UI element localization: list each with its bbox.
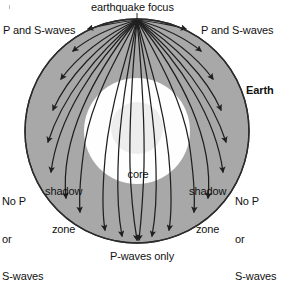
label-p-waves-only: P-waves only	[104, 250, 180, 263]
label-core: core	[120, 168, 156, 181]
label-right-s-waves-line: S-waves	[235, 270, 276, 283]
label-left-shadow-zone: shadow zone	[45, 160, 82, 260]
label-left-or-line: or	[2, 233, 43, 246]
label-right-p-and-s-waves: P and S-waves	[201, 24, 273, 37]
label-right-no-p-or-s-waves: No P or S-waves	[235, 170, 276, 284]
label-earth: Earth	[246, 84, 274, 97]
label-right-shadow-zone: shadow zone	[189, 160, 226, 260]
label-earthquake-focus: earthquake focus	[91, 1, 174, 14]
label-right-or-line: or	[235, 233, 276, 246]
label-left-no-p-or-s-waves: No P or S-waves	[2, 170, 43, 284]
label-right-shadow-line2: zone	[189, 223, 226, 236]
label-left-no-p-line: No P	[2, 195, 43, 208]
label-right-no-p-line: No P	[235, 195, 276, 208]
label-right-shadow-line1: shadow	[189, 185, 226, 198]
label-left-shadow-line2: zone	[45, 223, 82, 236]
label-left-p-and-s-waves: P and S-waves	[3, 24, 75, 37]
label-left-s-waves-line: S-waves	[2, 270, 43, 283]
label-left-shadow-line1: shadow	[45, 185, 82, 198]
scan-artifact-speck	[9, 5, 10, 9]
